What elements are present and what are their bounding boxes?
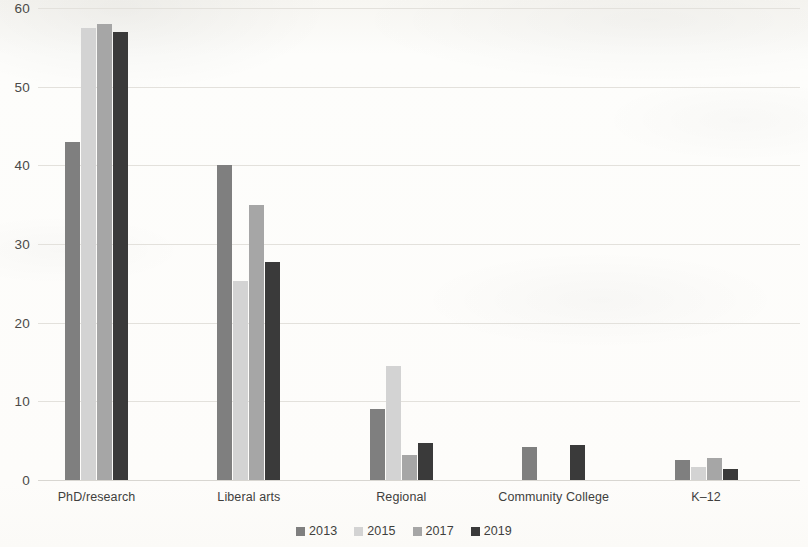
bar [265,262,280,480]
x-axis-category-label: PhD/research [58,490,136,504]
gridline [38,87,800,88]
y-axis-tick-label: 50 [0,79,30,94]
legend-label: 2015 [367,524,395,538]
legend-item[interactable]: 2019 [471,524,512,538]
bar [97,24,112,480]
legend-swatch-icon [413,527,422,536]
bar [113,32,128,480]
x-axis-category-label: K–12 [691,490,721,504]
legend-label: 2017 [426,524,454,538]
x-axis-category-label: Liberal arts [217,490,280,504]
legend-swatch-icon [471,527,480,536]
legend-label: 2013 [309,524,337,538]
y-axis-tick-label: 20 [0,315,30,330]
bar [723,469,738,480]
legend-item[interactable]: 2017 [413,524,454,538]
y-axis-tick-label: 10 [0,394,30,409]
plot-area: 0102030405060PhD/researchLiberal artsReg… [38,8,800,480]
y-axis-tick-label: 30 [0,237,30,252]
bar [570,445,585,480]
legend-label: 2019 [484,524,512,538]
gridline [38,244,800,245]
grouped-bar-chart: 0102030405060PhD/researchLiberal artsReg… [0,0,808,547]
bar [249,205,264,480]
bar [707,458,722,480]
bar [217,165,232,480]
bar [522,447,537,480]
bar [402,455,417,480]
x-axis-category-label: Regional [376,490,426,504]
gridline [38,323,800,324]
gridline [38,401,800,402]
gridline [38,165,800,166]
y-axis-tick-label: 0 [0,473,30,488]
bar [675,460,690,480]
chart-legend: 2013201520172019 [0,524,808,538]
x-axis-line [38,480,800,481]
y-axis-tick-label: 40 [0,158,30,173]
bar [418,443,433,480]
bar [370,409,385,480]
bar [81,28,96,480]
gridline [38,8,800,9]
bar [233,281,248,480]
legend-item[interactable]: 2013 [296,524,337,538]
y-axis-tick-label: 60 [0,1,30,16]
legend-swatch-icon [354,527,363,536]
bar [386,366,401,480]
x-axis-category-label: Community College [498,490,609,504]
bar [65,142,80,480]
legend-item[interactable]: 2015 [354,524,395,538]
legend-swatch-icon [296,527,305,536]
bar [691,467,706,480]
